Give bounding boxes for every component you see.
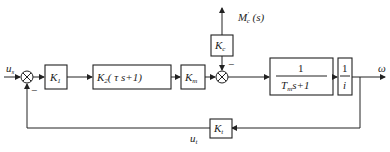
summer1-minus-sign: − <box>31 84 37 96</box>
motor-numerator: 1 <box>298 62 304 74</box>
input-label: us <box>6 62 15 76</box>
summer2-minus-sign: − <box>228 58 234 70</box>
block-diagram: us − K1 K2( τ s+1) Km − Kc M′c (s) 1 Tms… <box>0 0 390 152</box>
gear-denominator: i <box>343 79 346 91</box>
disturbance-label: M′c (s) <box>237 10 265 25</box>
summing-junction-2 <box>216 71 228 83</box>
summing-junction-1 <box>21 71 33 83</box>
motor-denominator: Tms+1 <box>281 79 309 93</box>
k2-label: K2( τ s+1) <box>96 71 142 85</box>
feedback-line-to-summer1 <box>27 84 210 128</box>
feedback-signal-label: ut <box>190 132 199 146</box>
gear-numerator: 1 <box>342 62 348 74</box>
output-label: ω <box>378 62 386 74</box>
